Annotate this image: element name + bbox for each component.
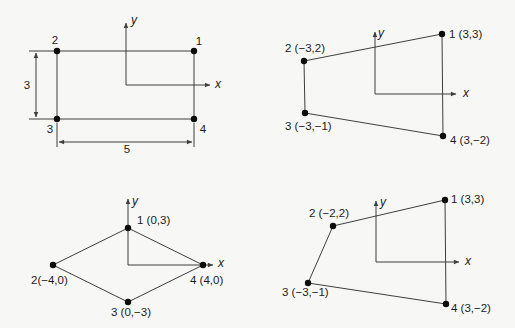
vertex-label-3: 3 (−3,−1)	[282, 286, 329, 298]
vertex-label-3: 3	[47, 123, 53, 135]
diagram-rhombus-coordinates: 1 (0,3)2(−4,0)3 (0,−3)4 (4,0)xy	[0, 164, 257, 328]
vertex-label-3: 3 (0,−3)	[111, 306, 151, 318]
vertex-dot-3	[54, 116, 60, 122]
vertex-dot-4	[440, 133, 446, 139]
vertex-dot-3	[302, 110, 308, 116]
vertex-dot-2	[54, 48, 60, 54]
y-axis-label: y	[130, 13, 138, 27]
vertex-dot-4	[200, 262, 206, 268]
x-axis-label: x	[214, 77, 222, 91]
vertex-label-2: 2(−4,0)	[31, 274, 68, 286]
diagram-rectangle-3-by-5: 123435xy	[0, 0, 257, 164]
vertex-label-1: 1 (3,3)	[451, 193, 484, 205]
vertex-label-4: 4 (3,−2)	[450, 134, 490, 146]
vertex-label-2: 2 (−3,2)	[285, 42, 325, 54]
vertex-dot-1	[439, 31, 445, 37]
vertex-dot-4	[443, 301, 449, 307]
vertex-dot-2	[330, 223, 336, 229]
dimension-label-width: 5	[124, 143, 130, 155]
y-axis-label: y	[131, 194, 139, 208]
vertex-dot-4	[191, 116, 197, 122]
x-axis-label: x	[217, 256, 225, 270]
vertex-label-1: 1	[196, 35, 202, 47]
vertex-dot-2	[301, 58, 307, 64]
vertex-label-2: 2	[52, 34, 58, 46]
diagram-quadrilateral-coordinates: 1 (3,3)2 (−2,2)3 (−3,−1)4 (3,−2)xy	[257, 164, 515, 328]
diagram-trapezoid-coordinates: 1 (3,3)2 (−3,2)3 (−3,−1)4 (3,−2)xy	[257, 0, 515, 164]
dimension-label-height: 3	[24, 79, 30, 91]
vertex-label-2: 2 (−2,2)	[309, 207, 349, 219]
vertex-dot-2	[50, 262, 56, 268]
y-axis-label: y	[377, 26, 385, 40]
vertex-label-4: 4 (3,−2)	[451, 302, 491, 314]
y-axis-label: y	[379, 195, 387, 209]
vertex-dot-1	[125, 225, 131, 231]
coordinate-diagrams-figure: 123435xy 1 (3,3)2 (−3,2)3 (−3,−1)4 (3,−2…	[0, 0, 515, 328]
x-axis-label: x	[464, 254, 472, 268]
x-axis-label: x	[462, 86, 470, 100]
vertex-dot-1	[442, 197, 448, 203]
vertex-dot-1	[191, 48, 197, 54]
vertex-dot-3	[125, 299, 131, 305]
vertex-label-4: 4 (4,0)	[190, 274, 223, 286]
vertex-label-1: 1 (3,3)	[449, 28, 482, 40]
vertex-label-4: 4	[200, 123, 207, 135]
vertex-label-1: 1 (0,3)	[137, 214, 170, 226]
vertex-label-3: 3 (−3,−1)	[285, 120, 332, 132]
